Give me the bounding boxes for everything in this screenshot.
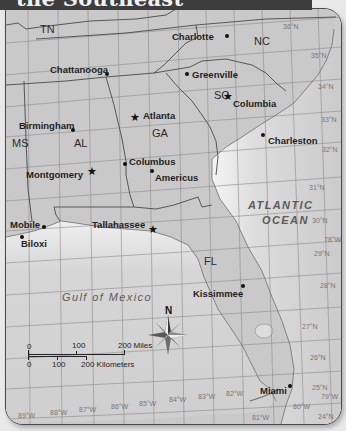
state-label-al: AL bbox=[74, 137, 87, 149]
city-dot-charleston bbox=[261, 133, 265, 137]
scale-miles-100: 100 bbox=[72, 341, 85, 350]
city-label-charleston: Charleston bbox=[268, 135, 318, 146]
city-label-kissimmee: Kissimmee bbox=[193, 288, 243, 299]
water-label-ocean: OCEAN bbox=[262, 214, 309, 226]
city-label-atlanta: Atlanta bbox=[143, 110, 175, 121]
lat-label-36n: 36°N bbox=[283, 23, 299, 30]
water-label-gulf-of-mexico: Gulf of Mexico bbox=[62, 291, 152, 303]
capital-star-icon-montgomery: ★ bbox=[87, 165, 97, 178]
lat-label-35n: 35°N bbox=[311, 52, 327, 59]
city-label-montgomery: Montgomery bbox=[26, 169, 83, 180]
city-label-columbia: Columbia bbox=[233, 98, 276, 109]
city-dot-mobile bbox=[42, 225, 46, 229]
state-label-nc: NC bbox=[254, 35, 270, 47]
lat-label-32n: 32°N bbox=[322, 146, 338, 153]
city-dot-miami bbox=[288, 384, 292, 388]
map-frame: TN NC SC GA AL MS FL Charlotte Chattanoo… bbox=[5, 8, 342, 425]
scale-tick bbox=[124, 350, 125, 355]
lat-label-26n: 26°N bbox=[310, 354, 326, 361]
scale-km-200: 200 Kilometers bbox=[81, 360, 134, 369]
city-label-charlotte: Charlotte bbox=[172, 31, 214, 42]
state-label-tn: TN bbox=[40, 23, 55, 35]
lon-label-88w: 88°W bbox=[50, 409, 67, 416]
capital-star-icon-columbia: ★ bbox=[223, 90, 233, 103]
lat-label-29n: 29°N bbox=[314, 250, 330, 257]
state-label-ga: GA bbox=[152, 127, 168, 139]
compass-rose-icon bbox=[148, 315, 188, 355]
map-title-bar: the Southeast bbox=[0, 0, 312, 10]
scale-tick bbox=[28, 350, 29, 360]
lon-label-79w: 79°W bbox=[321, 393, 338, 400]
lon-label-89w: 89°W bbox=[18, 412, 35, 419]
lat-label-24n: 24°N bbox=[318, 413, 334, 420]
city-dot-greenville bbox=[185, 72, 189, 76]
scale-miles-0: 0 bbox=[27, 342, 31, 351]
lat-label-33n: 33°N bbox=[321, 116, 337, 123]
state-label-ms: MS bbox=[12, 137, 29, 149]
lon-label-81w: 81°W bbox=[252, 414, 269, 421]
city-label-chattanooga: Chattanooga bbox=[50, 64, 108, 75]
scale-km-0: 0 bbox=[27, 360, 31, 369]
city-label-greenville: Greenville bbox=[192, 69, 238, 80]
city-label-tallahassee: Tallahassee bbox=[92, 219, 145, 230]
capital-star-icon-tallahassee: ★ bbox=[148, 223, 158, 236]
scale-tick bbox=[76, 351, 77, 355]
lake-okeechobee bbox=[255, 324, 273, 338]
lon-label-83w: 83°W bbox=[198, 393, 215, 400]
lat-label-34n: 34°N bbox=[318, 83, 334, 90]
water-label-atlantic: ATLANTIC bbox=[248, 199, 313, 211]
lat-label-30n: 30°N bbox=[312, 217, 328, 224]
lon-label-80w: 80°W bbox=[293, 403, 310, 410]
lon-label-87w: 87°W bbox=[79, 406, 96, 413]
city-label-americus: Americus bbox=[155, 172, 198, 183]
city-label-columbus: Columbus bbox=[129, 156, 175, 167]
lon-label-86w: 86°W bbox=[111, 403, 128, 410]
scale-miles-200: 200 Miles bbox=[118, 341, 152, 350]
city-label-mobile: Mobile bbox=[10, 219, 40, 230]
map-title: the Southeast bbox=[16, 0, 183, 10]
lat-label-27n: 27°N bbox=[302, 323, 318, 330]
city-dot-americus bbox=[150, 169, 154, 173]
city-label-miami: Miami bbox=[260, 385, 287, 396]
lat-label-31n: 31°N bbox=[309, 184, 325, 191]
lon-label-85w: 85°W bbox=[139, 400, 156, 407]
lon-label-82w: 82°W bbox=[226, 390, 243, 397]
scale-km-100: 100 bbox=[52, 360, 65, 369]
lat-label-25n: 25°N bbox=[312, 384, 328, 391]
city-dot-columbus bbox=[123, 162, 127, 166]
state-label-fl: FL bbox=[204, 255, 217, 267]
capital-star-icon-atlanta: ★ bbox=[130, 111, 140, 124]
lon-label-78w: 78°W bbox=[324, 236, 341, 243]
city-label-biloxi: Biloxi bbox=[21, 238, 47, 249]
lat-label-28n: 28°N bbox=[320, 282, 336, 289]
lon-label-84w: 84°W bbox=[169, 396, 186, 403]
city-label-birmingham: Birmingham bbox=[19, 120, 74, 131]
city-dot-charlotte bbox=[225, 34, 229, 38]
